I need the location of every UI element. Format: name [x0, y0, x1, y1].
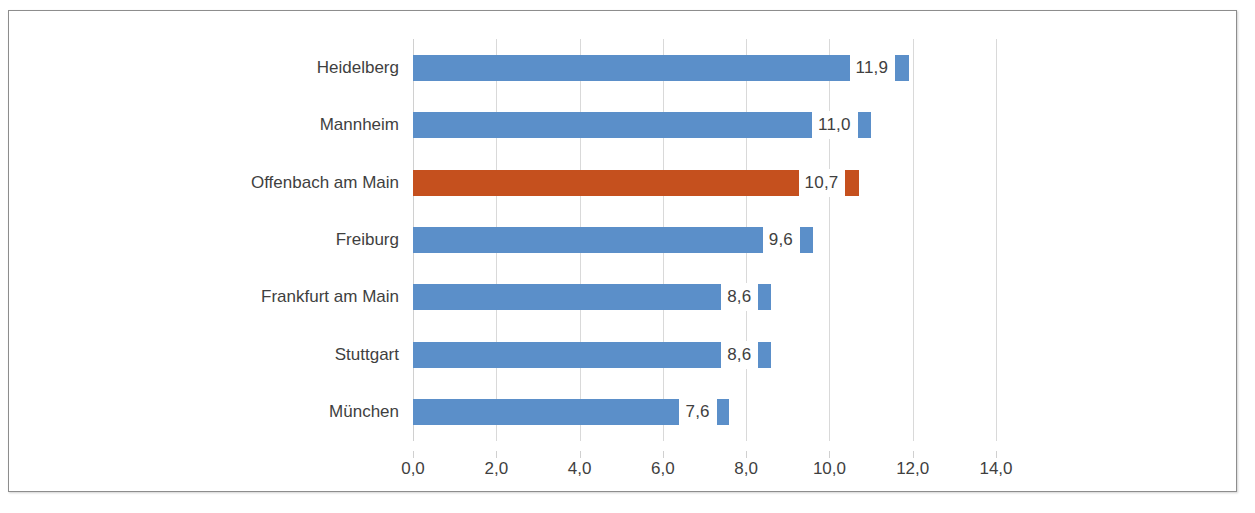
bar-row: 7,6 [413, 399, 996, 425]
bar[interactable] [413, 284, 771, 310]
bar-value-label: 11,0 [812, 111, 858, 139]
x-tick-label: 6,0 [651, 459, 675, 479]
bar-row: 9,6 [413, 227, 996, 253]
x-tick-mark [496, 451, 497, 458]
bar-value-label: 8,6 [721, 341, 758, 369]
bar[interactable] [413, 170, 859, 196]
x-tick-mark [829, 451, 830, 458]
x-tick-mark [913, 451, 914, 458]
bar[interactable] [413, 55, 909, 81]
bar-row: 8,6 [413, 284, 996, 310]
x-tick-label: 14,0 [979, 459, 1012, 479]
x-tick-mark [663, 451, 664, 458]
bar-row: 11,9 [413, 55, 996, 81]
x-tick-label: 8,0 [734, 459, 758, 479]
bar-value-label: 11,9 [850, 54, 896, 82]
x-tick-mark [580, 451, 581, 458]
x-tick-mark [746, 451, 747, 458]
bar[interactable] [413, 112, 871, 138]
x-axis: 0,02,04,06,08,010,012,014,0 [413, 451, 996, 481]
bar-value-label: 9,6 [763, 226, 800, 254]
bar-value-label: 10,7 [799, 169, 846, 197]
bar-value-label: 7,6 [679, 398, 716, 426]
x-tick-mark [996, 451, 997, 458]
bar-row: 8,6 [413, 342, 996, 368]
category-label: Offenbach am Main [251, 170, 399, 196]
screenshot-root: 11,911,010,79,68,68,67,6 HeidelbergMannh… [0, 0, 1255, 513]
x-tick-label: 0,0 [401, 459, 425, 479]
category-label: München [329, 399, 399, 425]
category-label: Mannheim [320, 112, 399, 138]
x-tick-label: 2,0 [484, 459, 508, 479]
bar[interactable] [413, 342, 771, 368]
category-label: Freiburg [336, 227, 399, 253]
x-tick-mark [413, 451, 414, 458]
x-tick-label: 12,0 [896, 459, 929, 479]
bar[interactable] [413, 227, 813, 253]
category-label: Stuttgart [335, 342, 399, 368]
chart-frame: 11,911,010,79,68,68,67,6 HeidelbergMannh… [8, 10, 1237, 492]
x-tick-label: 4,0 [568, 459, 592, 479]
gridline [996, 39, 997, 441]
category-label: Heidelberg [317, 55, 399, 81]
bar-row: 11,0 [413, 112, 996, 138]
category-label: Frankfurt am Main [261, 284, 399, 310]
plot-area: 11,911,010,79,68,68,67,6 [413, 39, 996, 441]
bar-value-label: 8,6 [721, 283, 758, 311]
category-axis: HeidelbergMannheimOffenbach am MainFreib… [9, 39, 399, 441]
bar-row: 10,7 [413, 170, 996, 196]
x-tick-label: 10,0 [813, 459, 846, 479]
